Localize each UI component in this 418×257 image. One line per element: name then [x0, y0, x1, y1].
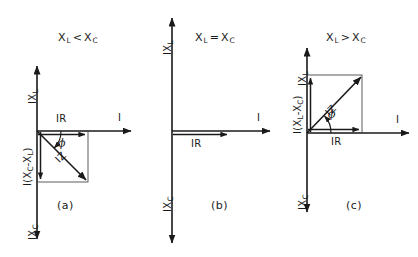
caption-b: (b) [211, 199, 228, 212]
axis-label-up-a: IXL [27, 89, 40, 104]
relation-label-c: XL>XC [326, 31, 366, 45]
caption-a: (a) [57, 199, 74, 212]
ir-label-a: IR [56, 113, 67, 124]
axis-label-down-b: IXC [162, 196, 175, 212]
axis-label-current-c: I [396, 114, 399, 125]
axis-label-up-b: IXL [162, 40, 175, 55]
relation-label-a: XL<XC [58, 31, 98, 45]
axis-label-up-c: IXL [297, 71, 310, 86]
phi-label-a: ϕ [58, 137, 66, 150]
phasor-panel-c: XL>XC IXL IXC I IR I(XL-XC) IZ ϕ (c) [278, 0, 418, 257]
figure-canvas: XL<XC IXL IXC I IR I(XC-XL) IZ ϕ (a) [0, 0, 418, 257]
axis-label-current-b: I [257, 112, 260, 123]
axis-label-current-a: I [118, 112, 121, 123]
phasor-panel-b: XL=XC IXL IXC I IR (b) [139, 0, 279, 257]
caption-c: (c) [346, 199, 362, 212]
phi-label-c: ϕ [328, 108, 336, 121]
phasor-panel-a: XL<XC IXL IXC I IR I(XC-XL) IZ ϕ (a) [0, 0, 140, 257]
axis-label-down-a: IXC [27, 224, 40, 240]
relation-label-b: XL=XC [195, 31, 235, 45]
reactive-label-a: I(XC-XL) [22, 147, 35, 186]
ir-label-b: IR [191, 138, 202, 149]
ir-label-c: IR [331, 136, 342, 147]
reactive-label-c: I(XL-XC) [292, 95, 305, 134]
axis-label-down-c: IXC [297, 194, 310, 210]
